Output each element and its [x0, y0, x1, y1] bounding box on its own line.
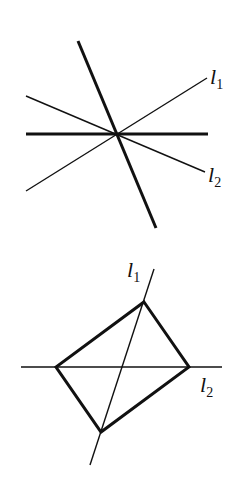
label-l2: l2 [208, 162, 221, 190]
label-l1: l1 [127, 257, 140, 285]
top-figure: l1 l2 [26, 41, 223, 228]
label-l1: l1 [210, 64, 223, 92]
bottom-figure: l1 l2 [21, 257, 222, 465]
diagram-canvas: l1 l2 l1 l2 [0, 0, 244, 479]
label-l2: l2 [200, 372, 213, 400]
